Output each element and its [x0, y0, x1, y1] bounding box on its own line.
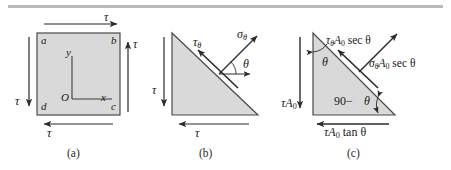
panel-a-tau-right-label: τ: [133, 38, 137, 50]
panel-c-sigma-sec-theta-text: sec θ: [389, 57, 415, 69]
panel-b-angle-theta-label: θ: [243, 58, 249, 70]
panel-c-sigma-area-symbol: A: [379, 57, 386, 69]
panel-c-upper-angle-theta-label: θ: [322, 56, 328, 68]
square-corner-label-a: a: [41, 35, 47, 46]
figure-vector-layer: [0, 0, 451, 170]
panel-c-sigma-theta-a0-sec-theta-label: σθA0 sec θ: [369, 58, 415, 71]
panel-b-tau-bottom-label: τ: [195, 127, 199, 139]
panel-a-caption: (a): [67, 148, 80, 160]
axis-origin-label: O: [61, 92, 69, 103]
panel-c-area-subscript: 0: [293, 102, 297, 111]
y-axis-label: y: [66, 47, 71, 58]
panel-b-shapes: [164, 33, 258, 124]
panel-c-ninety-minus-label: 90−: [334, 95, 353, 107]
panel-b-angle-arc: [231, 62, 236, 74]
panel-b-tau-theta-subscript: θ: [197, 41, 201, 50]
stress-element-square: [37, 33, 120, 115]
panel-c-tau-a0-tan-theta-label: τA0 tan θ: [324, 126, 366, 140]
panel-a-tau-left-label: τ: [15, 95, 19, 107]
square-corner-label-d: d: [41, 101, 47, 112]
panel-b-sigma-theta-subscript: θ: [243, 33, 247, 42]
panel-a-tau-top-label: τ: [104, 11, 108, 23]
panel-c-caption: (c): [347, 148, 360, 160]
panel-c-tau-a0-label: τA0: [281, 97, 297, 111]
panel-c-area-symbol: A: [285, 96, 292, 110]
square-corner-label-c: c: [111, 101, 116, 112]
panel-b-tau-left-label: τ: [152, 84, 156, 96]
panel-c-tau-theta-a0-sec-theta-label: τθA0 sec θ: [326, 35, 371, 48]
square-corner-label-b: b: [111, 35, 117, 46]
panel-b-caption: (b): [199, 148, 212, 160]
panel-b-sigma-theta-label: σθ: [237, 28, 247, 42]
panel-a-tau-bottom-label: τ: [47, 127, 51, 139]
panel-c-tan-theta-text: tan θ: [340, 125, 366, 139]
panel-c-lower-angle-theta-label: θ: [364, 95, 370, 107]
panel-c-tau-sec-theta-text: sec θ: [345, 34, 371, 46]
panel-b-tau-theta-label: τθ: [193, 36, 201, 50]
panel-c-tan-area-symbol: A: [328, 125, 335, 139]
panel-c-tau-area-symbol: A: [334, 34, 341, 46]
figure-container: a b c d O x y τ τ τ τ τ τ τθ σθ θ τA0 τA…: [0, 0, 451, 170]
x-axis-label: x: [101, 92, 106, 103]
